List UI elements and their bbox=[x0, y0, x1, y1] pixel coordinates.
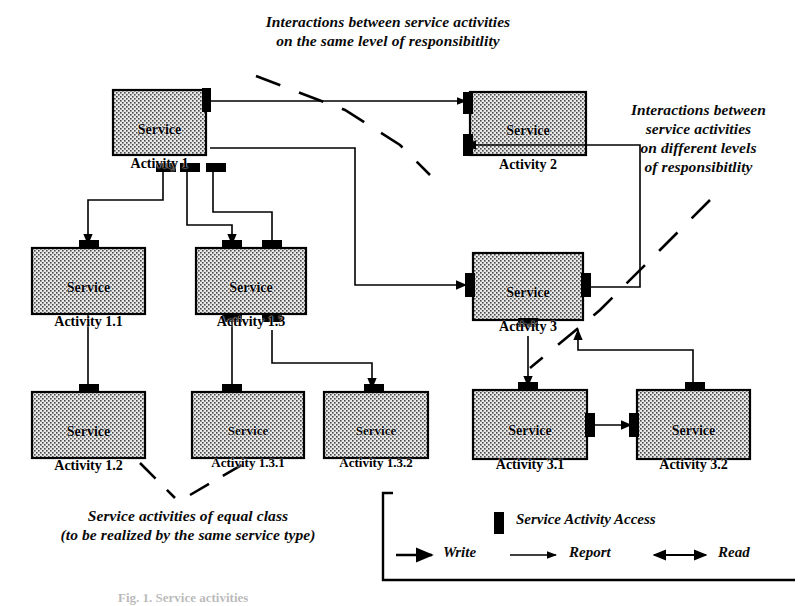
access-port-sa2-left-bottom bbox=[463, 134, 473, 156]
edge-sa32-riser bbox=[600, 338, 693, 386]
access-port-sa31-right bbox=[585, 413, 595, 437]
node-service-activity-1-3-2[interactable] bbox=[324, 392, 428, 458]
access-port-sa12-top bbox=[79, 384, 99, 393]
access-port-sa13-bottom-right bbox=[262, 313, 282, 322]
annotation-equal-class: Service activities of equal class (to be… bbox=[8, 506, 368, 544]
access-port-sa31-top bbox=[518, 382, 538, 391]
leader-same-level bbox=[256, 76, 430, 175]
legend-box bbox=[383, 493, 795, 580]
leader-equal-class-left bbox=[140, 463, 175, 498]
node-service-activity-1-2[interactable] bbox=[32, 392, 145, 458]
edge-sa32-to-sa3 bbox=[578, 330, 693, 386]
access-port-sa3-bottom bbox=[518, 318, 538, 327]
node-service-activity-3-2[interactable] bbox=[637, 390, 750, 459]
legend-item-write-label: Write bbox=[443, 544, 476, 561]
node-service-activity-1-1[interactable] bbox=[32, 248, 145, 314]
legend-item-report-label: Report bbox=[569, 544, 611, 561]
figure-caption: Fig. 1. Service activities bbox=[118, 590, 248, 606]
leader-equal-class-right bbox=[190, 460, 250, 495]
access-port-sa13-top-right bbox=[262, 240, 282, 249]
access-port-sa3-right bbox=[581, 273, 591, 297]
access-port-sa13-bottom-left bbox=[222, 313, 242, 322]
access-port-sa32-top bbox=[685, 382, 705, 391]
access-port-sa11-top bbox=[79, 240, 99, 249]
access-port-sa1-bottom-3 bbox=[206, 163, 226, 172]
access-port-sa132-top bbox=[364, 384, 384, 393]
node-service-activity-1[interactable] bbox=[113, 90, 206, 155]
edge-sa1-to-sa11 bbox=[88, 172, 163, 244]
annotation-same-level: Interactions between service activities … bbox=[188, 12, 588, 50]
edge-sa13-to-sa132 bbox=[272, 330, 372, 388]
edge-sa1-to-sa13-right bbox=[213, 172, 272, 244]
annotation-different-levels: Interactions between service activities … bbox=[596, 100, 801, 176]
access-port-sa131-top bbox=[222, 384, 242, 393]
node-service-activity-3[interactable] bbox=[473, 253, 583, 320]
node-service-activity-1-3[interactable] bbox=[196, 248, 306, 314]
edge-sa1-to-sa13 bbox=[187, 172, 232, 244]
access-port-sa2-left-top bbox=[463, 92, 473, 114]
access-port-sa3-left bbox=[465, 273, 475, 297]
access-port-sa32-left bbox=[629, 413, 639, 437]
access-port-sa1-bottom-1 bbox=[156, 163, 176, 172]
access-port-sa1-bottom-2 bbox=[180, 163, 200, 172]
filled-rectangle-icon bbox=[494, 512, 504, 534]
legend-item-read-label: Read bbox=[718, 544, 750, 561]
legend-access-label: Service Activity Access bbox=[516, 511, 656, 528]
access-port-sa13-top-left bbox=[222, 240, 242, 249]
node-service-activity-1-3-1[interactable] bbox=[192, 392, 304, 458]
access-port-sa1-right-top bbox=[202, 88, 211, 112]
node-service-activity-3-1[interactable] bbox=[473, 390, 587, 459]
